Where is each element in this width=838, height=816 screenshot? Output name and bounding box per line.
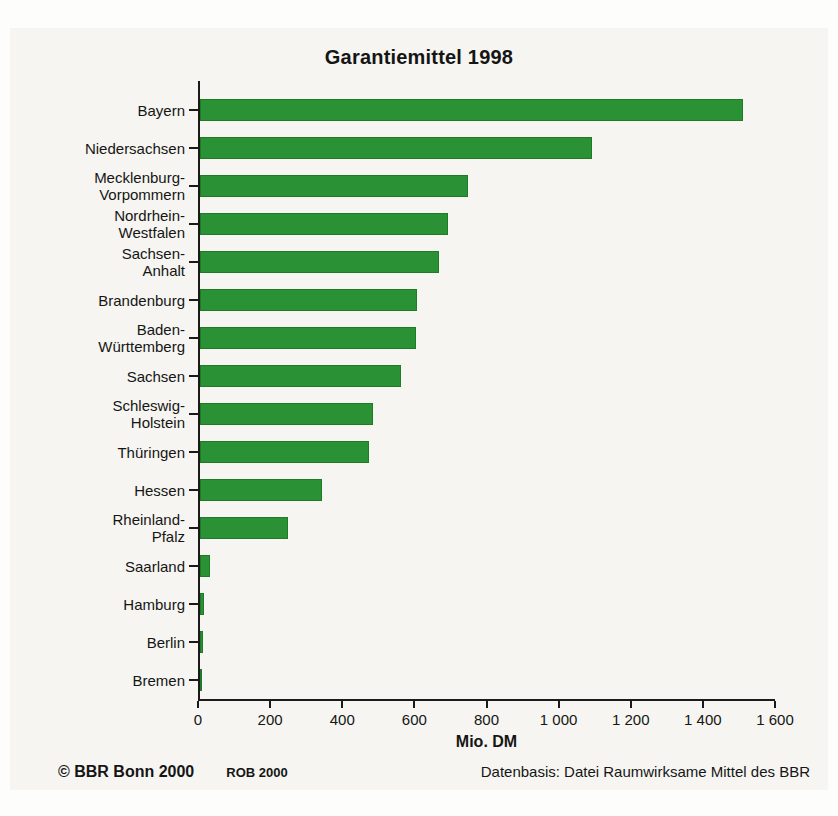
bar: [200, 479, 322, 501]
category-label-row: Brandenburg: [58, 281, 198, 319]
x-axis-tick-label: 1 600: [756, 711, 794, 728]
bar-row: [200, 547, 775, 585]
category-label: Schleswig- Holstein: [112, 397, 185, 431]
bar: [200, 365, 401, 387]
bar-row: [200, 357, 775, 395]
bar-row: [200, 433, 775, 471]
x-axis-tick-label: 800: [474, 711, 499, 728]
category-axis: BayernNiedersachsenMecklenburg- Vorpomme…: [58, 81, 198, 701]
category-label-row: Thüringen: [58, 433, 198, 471]
bar: [200, 327, 416, 349]
bar: [200, 289, 417, 311]
x-axis-tick: [702, 701, 704, 708]
bar: [200, 137, 592, 159]
category-label-row: Rheinland- Pfalz: [58, 509, 198, 547]
bar: [200, 517, 288, 539]
datenbasis-text: Datenbasis: Datei Raumwirksame Mittel de…: [481, 763, 810, 780]
category-tick: [189, 109, 198, 111]
bar-row: [200, 585, 775, 623]
category-label-row: Bayern: [58, 91, 198, 129]
category-label-row: Berlin: [58, 623, 198, 661]
bar-row: [200, 243, 775, 281]
category-tick: [189, 185, 198, 187]
bar-row: [200, 167, 775, 205]
category-label: Nordrhein- Westfalen: [114, 207, 185, 241]
bar-row: [200, 129, 775, 167]
category-tick: [189, 679, 198, 681]
category-label: Brandenburg: [98, 292, 185, 309]
category-label: Sachsen: [127, 368, 185, 385]
x-axis-tick-label: 600: [402, 711, 427, 728]
bar: [200, 403, 373, 425]
category-label-row: Bremen: [58, 661, 198, 699]
x-axis-tick: [558, 701, 560, 708]
bar: [200, 251, 439, 273]
copyright-text: © BBR Bonn 2000: [58, 763, 194, 781]
category-tick: [189, 261, 198, 263]
bar: [200, 213, 448, 235]
category-tick: [189, 527, 198, 529]
category-label: Bayern: [137, 102, 185, 119]
category-tick: [189, 337, 198, 339]
bar: [200, 99, 743, 121]
category-label: Mecklenburg- Vorpommern: [94, 169, 185, 203]
bar-row: [200, 661, 775, 699]
bar: [200, 631, 203, 653]
category-label-row: Schleswig- Holstein: [58, 395, 198, 433]
bar-chart: BayernNiedersachsenMecklenburg- Vorpomme…: [58, 81, 838, 701]
category-label-row: Hamburg: [58, 585, 198, 623]
category-tick: [189, 565, 198, 567]
category-label: Saarland: [125, 558, 185, 575]
x-axis-tick: [630, 701, 632, 708]
category-label: Hamburg: [123, 596, 185, 613]
x-axis-tick: [341, 701, 343, 708]
category-label-row: Nordrhein- Westfalen: [58, 205, 198, 243]
x-axis-tick: [413, 701, 415, 708]
x-axis-tick-label: 400: [330, 711, 355, 728]
bar-row: [200, 319, 775, 357]
rob-text: ROB 2000: [226, 765, 287, 780]
x-axis-tick-labels: 02004006008001 0001 2001 4001 600: [198, 709, 775, 729]
footer: © BBR Bonn 2000 ROB 2000 Datenbasis: Dat…: [58, 763, 810, 781]
bar: [200, 669, 202, 691]
category-tick: [189, 147, 198, 149]
x-axis-tick: [269, 701, 271, 708]
bar-row: [200, 509, 775, 547]
category-label-row: Mecklenburg- Vorpommern: [58, 167, 198, 205]
category-label-row: Baden- Württemberg: [58, 319, 198, 357]
bar-row: [200, 471, 775, 509]
category-label: Rheinland- Pfalz: [112, 511, 185, 545]
category-tick: [189, 299, 198, 301]
bar-row: [200, 623, 775, 661]
category-label: Thüringen: [117, 444, 185, 461]
x-axis-tick-label: 1 000: [540, 711, 578, 728]
x-axis-tick: [486, 701, 488, 708]
category-label: Bremen: [132, 672, 185, 689]
x-axis-tick-label: 1 200: [612, 711, 650, 728]
x-axis-tick-label: 200: [258, 711, 283, 728]
chart-figure: Garantiemittel 1998 BayernNiedersachsenM…: [0, 46, 838, 781]
category-tick: [189, 375, 198, 377]
category-label: Niedersachsen: [85, 140, 185, 157]
category-label: Berlin: [147, 634, 185, 651]
category-label-row: Sachsen- Anhalt: [58, 243, 198, 281]
x-axis-ticks: [198, 701, 775, 709]
bar-row: [200, 205, 775, 243]
plot-area: [198, 81, 775, 701]
x-axis-tick: [774, 701, 776, 708]
x-axis-tick-label: 1 400: [684, 711, 722, 728]
category-label-row: Sachsen: [58, 357, 198, 395]
category-label-row: Niedersachsen: [58, 129, 198, 167]
x-axis-tick: [197, 701, 199, 708]
category-label: Baden- Württemberg: [98, 321, 185, 355]
bar: [200, 555, 210, 577]
bar: [200, 593, 204, 615]
category-tick: [189, 223, 198, 225]
category-label-row: Saarland: [58, 547, 198, 585]
category-tick: [189, 489, 198, 491]
category-tick: [189, 451, 198, 453]
category-label: Sachsen- Anhalt: [122, 245, 185, 279]
bar: [200, 175, 468, 197]
x-axis-tick-label: 0: [194, 711, 202, 728]
category-label-row: Hessen: [58, 471, 198, 509]
